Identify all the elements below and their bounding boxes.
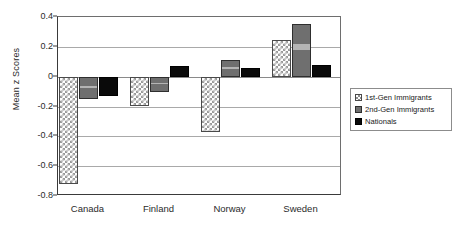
plot-area	[57, 16, 341, 195]
legend-label: Nationals	[365, 117, 397, 126]
legend-swatch-icon	[355, 94, 362, 101]
legend-swatch-icon	[355, 106, 362, 113]
gridline	[58, 166, 340, 167]
y-axis-tick-label: -0.6	[7, 160, 53, 170]
bar-finland-series-1	[150, 77, 169, 92]
legend-label: 1st-Gen Immigrants	[365, 93, 432, 102]
x-axis-category-label: Canada	[71, 203, 104, 214]
y-axis-tick-label: -0.8	[7, 190, 53, 200]
bar-sweden-series-0	[272, 40, 291, 77]
x-axis-category-label: Sweden	[283, 203, 317, 214]
bar-norway-series-1	[221, 60, 240, 76]
legend-item: 1st-Gen Immigrants	[355, 92, 448, 103]
y-axis-tick-label: -0.2	[7, 101, 53, 111]
bar-canada-series-1	[79, 77, 98, 99]
legend-swatch-icon	[355, 118, 362, 125]
y-axis-tick-label: 0	[7, 71, 53, 81]
gridline	[58, 107, 340, 108]
bar-norway-series-2	[241, 68, 260, 77]
bar-norway-series-0	[201, 77, 220, 132]
bar-canada-series-2	[99, 77, 118, 96]
legend-label: 2nd-Gen Immigrants	[365, 105, 434, 114]
legend-item: 2nd-Gen Immigrants	[355, 104, 448, 115]
y-axis-tick-label: 0.4	[7, 11, 53, 21]
legend-item: Nationals	[355, 116, 448, 127]
x-axis-category-label: Norway	[213, 203, 245, 214]
y-axis-tick-label: 0.2	[7, 41, 53, 51]
y-axis-tick-label: -0.4	[7, 130, 53, 140]
chart-legend: 1st-Gen Immigrants2nd-Gen ImmigrantsNati…	[350, 88, 452, 131]
gridline	[58, 136, 340, 137]
bar-finland-series-2	[170, 66, 189, 76]
bar-sweden-series-2	[312, 65, 331, 77]
bar-finland-series-0	[130, 77, 149, 107]
bar-canada-series-0	[59, 77, 78, 184]
x-axis-category-label: Finland	[143, 203, 174, 214]
bar-sweden-series-1	[292, 24, 311, 76]
bar-chart: Mean z Scores 0.40.20-0.2-0.4-0.6-0.8 Ca…	[0, 0, 456, 235]
